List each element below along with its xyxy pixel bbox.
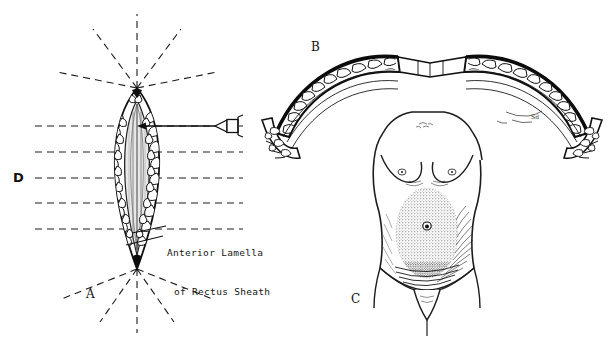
panel-b-central-band: [398, 57, 466, 77]
panel-letter-d: D: [13, 171, 24, 184]
needle-icon: [215, 115, 243, 137]
panel-b-right-arc: [464, 56, 602, 158]
panel-c-torso: [373, 112, 482, 336]
panel-b-left-arc: [262, 56, 400, 158]
artist-signature: Sd: [531, 113, 539, 120]
umbilicus: [423, 222, 431, 230]
medical-figure: D A B C Anterior Lamella of Rectus Sheat…: [0, 0, 608, 343]
panel-letter-a: A: [86, 288, 95, 300]
panel-a-radiating-planes-top: [57, 14, 217, 88]
anterior-lamella-callout: Anterior Lamella of Rectus Sheath: [167, 220, 270, 324]
panel-a-rectus-cross-section: [107, 88, 162, 269]
panel-letter-b: B: [311, 41, 320, 53]
panel-letter-c: C: [351, 293, 361, 305]
callout-line-1: Anterior Lamella: [167, 246, 270, 259]
callout-line-2: of Rectus Sheath: [167, 285, 270, 298]
